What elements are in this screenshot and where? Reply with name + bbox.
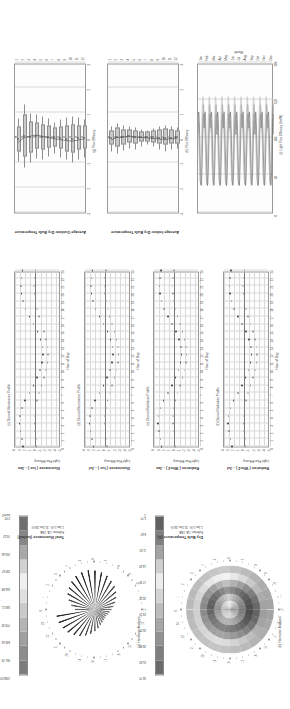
data-point <box>29 315 31 317</box>
polar-ring-tick <box>272 633 273 634</box>
polar-hour-label: 23 <box>177 622 180 625</box>
polar-ring-tick <box>259 647 260 648</box>
y-axis-tick: 2 <box>231 449 235 456</box>
polar-hour-label: 23 <box>42 622 45 625</box>
data-point <box>233 308 235 310</box>
polar-hour-label: 18 <box>228 661 231 664</box>
x-axis-tick: 14 <box>131 339 135 342</box>
grid-line-vertical <box>85 391 129 392</box>
x-axis-tick: 10 <box>200 369 204 372</box>
data-point <box>172 292 174 294</box>
y-axis-tick: 0 <box>102 449 106 456</box>
grid-line-horizontal <box>169 272 170 446</box>
polar-ring-tick <box>217 656 218 657</box>
data-point <box>111 323 113 325</box>
data-point <box>245 308 247 310</box>
grid-line-vertical <box>85 315 129 316</box>
box-category-label: 2 <box>114 58 118 60</box>
x-axis-tick: 9 <box>200 379 204 381</box>
colorbar-swatch-10 <box>20 516 27 530</box>
x-axis-tick: 18 <box>131 308 135 311</box>
x-axis-tick: 11 <box>61 362 65 365</box>
x-axis-tick: 1 <box>61 440 65 442</box>
y-axis-tick: -3 <box>48 449 52 456</box>
y-axis-tick: -2 <box>43 449 47 456</box>
x-axis-tick: 7 <box>200 394 204 396</box>
column-box-timeseries: 123456789101112-3-2-10123(g) Flux Effica… <box>6 4 284 237</box>
panel-illuminance-2: (d) Diurnal Illuminance Profile-5-4-3-2-… <box>76 237 146 473</box>
data-point <box>173 430 175 432</box>
polar-ring-tick <box>141 602 142 603</box>
data-point <box>167 315 169 317</box>
x-axis-tick: 19 <box>131 300 135 303</box>
polar-hour-label: 16 <box>255 654 258 657</box>
grid-line-vertical <box>224 338 268 339</box>
x-axis-tick: 10 <box>61 369 65 372</box>
x-axis-tick: 6 <box>131 401 135 403</box>
x-axis-tick: 6 <box>200 401 204 403</box>
x-axis-tick: 13 <box>131 346 135 349</box>
data-point <box>178 338 180 340</box>
data-point <box>185 361 187 363</box>
y-axis-tick: -3 <box>257 449 261 456</box>
polar-hour-label: 12 <box>281 608 284 611</box>
x-axis-tick: 7 <box>61 394 65 396</box>
data-point <box>111 384 113 386</box>
polar-hour-label: 8 <box>118 565 121 566</box>
x-axis-tick: 19 <box>200 300 204 303</box>
x-axis-tick: 9 <box>270 379 274 381</box>
y-axis-tick: -1 <box>38 449 42 456</box>
colorbar-tick-label: 456.89 <box>2 586 10 589</box>
colorbar-swatch-4 <box>20 602 27 616</box>
data-point <box>47 353 49 355</box>
data-point <box>247 315 249 317</box>
polar-ring-tick <box>180 608 181 609</box>
scatter-plot-area <box>14 271 60 447</box>
polar-ring-tick <box>93 656 94 657</box>
polar-ring-tick <box>254 651 255 652</box>
colorbar-swatch-6 <box>156 573 163 587</box>
grid-line-horizontal <box>61 272 62 446</box>
x-axis-tick: 17 <box>270 316 274 319</box>
scatter-x-label: Hour of Day <box>136 352 140 369</box>
x-axis-tick: 2 <box>61 432 65 434</box>
polar-ring-tick <box>59 642 60 643</box>
colorbar-swatch-1 <box>156 645 163 659</box>
polar-ring-tick <box>59 574 60 575</box>
x-axis-tick: 3 <box>270 424 274 426</box>
figure-sheet: 1088.00961.78835.56709.33583.11456.89330… <box>0 0 290 709</box>
colorbar-tick-label: 14.40 <box>139 563 146 566</box>
polar-ring-tick <box>190 638 191 639</box>
polar-hour-label: 20 <box>66 653 69 656</box>
box-category-label: 7 <box>144 58 148 60</box>
data-point <box>39 369 41 371</box>
x-axis-tick: 16 <box>270 323 274 326</box>
data-point <box>237 392 239 394</box>
grid-line-horizontal <box>239 272 240 446</box>
polar-ring-5 <box>221 600 239 618</box>
colorbar-tick-label: 17.30 <box>139 579 146 582</box>
x-axis-tick: 10 <box>131 369 135 372</box>
colorbar-swatch-0 <box>20 660 27 674</box>
grid-line-vertical <box>15 361 59 362</box>
x-axis-tick: 11 <box>200 362 204 365</box>
y-axis-tick: -4 <box>53 449 57 456</box>
timeseries-month-label: Sep <box>250 55 254 60</box>
data-point <box>250 346 252 348</box>
data-point <box>172 415 174 417</box>
polar-ring-tick <box>254 566 255 567</box>
x-axis-tick: 22 <box>61 277 65 280</box>
grid-line-horizontal <box>110 272 111 446</box>
colorbar-swatch-10 <box>156 516 163 530</box>
polar-ring-tick <box>195 643 196 644</box>
polar-heatmap-chart: 01234567891011121314151617181920212223 <box>178 557 282 661</box>
x-axis-tick: 15 <box>200 331 204 334</box>
colorbar-tick-label: 28.90 <box>139 643 146 646</box>
box-category-label: 8 <box>150 58 154 60</box>
box-panel-title: Average Indoor Dry Bulb Temperature <box>110 229 178 233</box>
polar-ring-tick <box>46 615 47 616</box>
grid-line-horizontal <box>229 272 230 446</box>
colorbar-swatch-6 <box>20 573 27 587</box>
x-axis-tick: 18 <box>200 308 204 311</box>
polar-hour-label: 7 <box>242 558 245 559</box>
